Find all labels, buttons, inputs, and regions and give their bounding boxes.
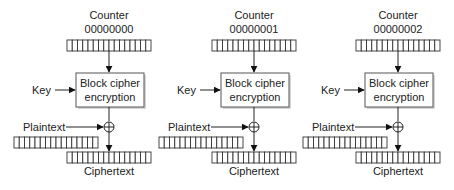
register-cell (141, 40, 146, 51)
register-cell (67, 137, 72, 148)
register-cell (191, 137, 196, 148)
register-cell (72, 152, 77, 163)
register-cell (88, 152, 93, 163)
register-cell (109, 152, 114, 163)
register-cell (329, 137, 334, 148)
register-cell (430, 40, 435, 51)
counter-value: 00000000 (85, 23, 134, 35)
register-cell (217, 137, 222, 148)
register-cell (367, 40, 372, 51)
register-cell (212, 137, 217, 148)
register-cell (403, 40, 408, 51)
stage-1: Counter 00000001 Block cipher encryption… (159, 9, 296, 177)
register-cell (201, 137, 206, 148)
register-cell (120, 152, 125, 163)
register-cell (217, 40, 222, 51)
register-cell (419, 40, 424, 51)
plaintext-register (303, 137, 387, 148)
ciphertext-label: Ciphertext (373, 165, 423, 177)
ctr-mode-diagram: Counter 00000000 Block cipher encryption… (0, 0, 454, 190)
counter-register (212, 40, 296, 51)
register-cell (238, 152, 243, 163)
ciphertext-label: Ciphertext (229, 165, 279, 177)
register-cell (146, 40, 151, 51)
register-cell (377, 152, 382, 163)
counter-value: 00000002 (374, 23, 423, 35)
register-cell (254, 40, 259, 51)
register-cell (25, 137, 30, 148)
register-cell (88, 137, 93, 148)
register-cell (361, 137, 366, 148)
register-cell (259, 152, 264, 163)
register-cell (104, 152, 109, 163)
register-cell (319, 137, 324, 148)
register-cell (249, 152, 254, 163)
register-cell (212, 152, 217, 163)
register-cell (361, 152, 366, 163)
register-cell (233, 40, 238, 51)
block-label-1: Block cipher (80, 77, 140, 89)
register-cell (366, 137, 371, 148)
register-cell (372, 152, 377, 163)
register-cell (270, 40, 275, 51)
register-cell (72, 40, 77, 51)
register-cell (99, 40, 104, 51)
register-cell (393, 152, 398, 163)
register-cell (83, 40, 88, 51)
register-cell (175, 137, 180, 148)
register-cell (196, 137, 201, 148)
register-cell (259, 40, 264, 51)
register-cell (388, 40, 393, 51)
register-cell (286, 40, 291, 51)
register-cell (377, 137, 382, 148)
counter-label: Counter (234, 9, 273, 21)
counter-label: Counter (378, 9, 417, 21)
register-cell (356, 152, 361, 163)
register-cell (130, 40, 135, 51)
ciphertext-label: Ciphertext (84, 165, 134, 177)
register-cell (409, 152, 414, 163)
register-cell (135, 152, 140, 163)
register-cell (228, 40, 233, 51)
register-cell (170, 137, 175, 148)
key-label: Key (177, 84, 196, 96)
register-cell (78, 40, 83, 51)
block-label-2: encryption (230, 91, 281, 103)
register-cell (382, 40, 387, 51)
register-cell (238, 137, 243, 148)
register-cell (233, 137, 238, 148)
register-cell (227, 137, 232, 148)
register-cell (403, 152, 408, 163)
plaintext-label: Plaintext (312, 121, 354, 133)
register-cell (244, 152, 249, 163)
block-label-1: Block cipher (369, 77, 429, 89)
register-cell (77, 137, 82, 148)
register-cell (206, 137, 211, 148)
register-cell (275, 152, 280, 163)
register-cell (135, 40, 140, 51)
register-cell (56, 137, 61, 148)
plaintext-label: Plaintext (23, 121, 65, 133)
register-cell (67, 152, 72, 163)
key-label: Key (321, 84, 340, 96)
register-cell (382, 137, 387, 148)
register-cell (372, 40, 377, 51)
register-cell (393, 40, 398, 51)
register-cell (104, 40, 109, 51)
register-cell (93, 152, 98, 163)
register-cell (345, 137, 350, 148)
register-cell (130, 152, 135, 163)
register-cell (114, 40, 119, 51)
register-cell (367, 152, 372, 163)
register-cell (265, 152, 270, 163)
register-cell (249, 40, 254, 51)
register-cell (280, 40, 285, 51)
register-cell (324, 137, 329, 148)
register-cell (265, 40, 270, 51)
counter-register (67, 40, 151, 51)
register-cell (82, 137, 87, 148)
register-cell (159, 137, 164, 148)
register-cell (212, 40, 217, 51)
register-cell (46, 137, 51, 148)
register-cell (164, 137, 169, 148)
